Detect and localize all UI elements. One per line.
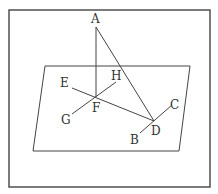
label-e: E <box>60 76 69 90</box>
label-a: A <box>90 12 100 26</box>
label-c: C <box>170 98 179 112</box>
segment-ad <box>96 27 154 121</box>
geometry-diagram: A E H F G C D B <box>0 0 218 194</box>
label-h: H <box>111 69 121 83</box>
label-d: D <box>151 124 161 138</box>
outer-frame <box>9 10 210 187</box>
label-g: G <box>61 113 71 127</box>
label-b: B <box>130 133 139 147</box>
label-f: F <box>92 101 100 115</box>
